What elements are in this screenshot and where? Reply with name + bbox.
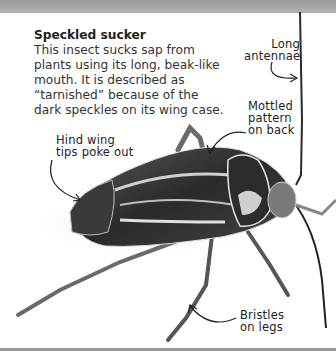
leg-front (248, 232, 288, 295)
callout-bristles-line2: on legs (240, 321, 284, 333)
callout-bristles: Bristles on legs (240, 309, 284, 333)
arrow-wing-tips (51, 160, 80, 200)
callout-antennae-line2: antennae (244, 50, 300, 62)
bottom-divider (0, 348, 336, 351)
callout-pattern-line3: on back (248, 124, 295, 136)
callout-wing-tips: Hind wing tips poke out (56, 134, 133, 158)
callout-antennae: Long antennae (256, 38, 300, 62)
antenna-lower (292, 200, 326, 328)
hind-wing-tip (70, 180, 114, 235)
leg-right (296, 200, 336, 214)
callout-wing-tips-line2: tips poke out (56, 146, 133, 158)
callout-pattern: Mottled pattern on back (248, 100, 295, 136)
insect-head (268, 182, 296, 218)
